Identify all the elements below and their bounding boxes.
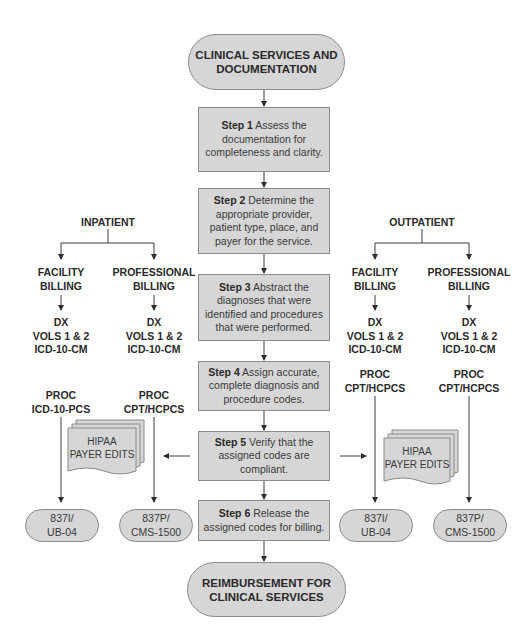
outpatient-professional-dx: DX VOLS 1 & 2 ICD-10-CM (441, 316, 498, 357)
form-line1: 837P/ (445, 512, 495, 526)
hipaa-line1: HIPAA (384, 445, 450, 458)
start-line1: CLINICAL SERVICES AND (195, 48, 337, 62)
step-6-label: Step 6 (219, 507, 251, 519)
inpatient-facility-claim-form: 837I/ UB-04 (25, 509, 99, 542)
inpatient-facility-billing: FACILITY BILLING (38, 266, 85, 293)
outpatient-facility-billing: FACILITY BILLING (352, 266, 399, 293)
start-line2: DOCUMENTATION (195, 62, 337, 76)
outpatient-title: OUTPATIENT (389, 216, 455, 230)
form-line1: 837P/ (131, 512, 181, 526)
outpatient-facility-proc: PROC CPT/HCPCS (345, 368, 406, 395)
dx-code-set: ICD-10-CM (126, 343, 183, 357)
outpatient-professional-billing: PROFESSIONAL BILLING (428, 266, 511, 293)
hipaa-line2: PAYER EDITS (68, 448, 136, 461)
form-line1: 837I/ (47, 512, 77, 526)
step-2-label: Step 2 (214, 194, 246, 206)
proc-label: PROC (32, 389, 90, 403)
outpatient-facility-claim-form: 837I/ UB-04 (339, 509, 413, 542)
step-5-label: Step 5 (215, 436, 247, 448)
proc-code-set: CPT/HCPCS (439, 382, 500, 396)
step-4-box: Step 4 Assign accurate, complete diagnos… (198, 361, 330, 411)
form-line2: CMS-1500 (131, 526, 181, 540)
inpatient-facility-title1: FACILITY (38, 266, 85, 280)
inpatient-professional-title2: BILLING (113, 280, 196, 294)
dx-code-set: ICD-10-CM (33, 343, 90, 357)
dx-label: DX (441, 316, 498, 330)
inpatient-professional-title1: PROFESSIONAL (113, 266, 196, 280)
end-terminator: REIMBURSEMENT FOR CLINICAL SERVICES (187, 562, 346, 617)
outpatient-facility-dx: DX VOLS 1 & 2 ICD-10-CM (347, 316, 404, 357)
step-6-box: Step 6 Release the assigned codes for bi… (198, 500, 330, 541)
dx-code-set: ICD-10-CM (441, 343, 498, 357)
form-line2: CMS-1500 (445, 526, 495, 540)
outpatient-facility-title2: BILLING (352, 280, 399, 294)
inpatient-professional-proc: PROC CPT/HCPCS (124, 389, 185, 416)
step-1-label: Step 1 (221, 119, 253, 131)
step-4-label: Step 4 (208, 366, 240, 378)
hipaa-line1: HIPAA (68, 435, 136, 448)
form-line1: 837I/ (361, 512, 391, 526)
dx-label: DX (126, 316, 183, 330)
outpatient-professional-proc: PROC CPT/HCPCS (439, 368, 500, 395)
inpatient-professional-billing: PROFESSIONAL BILLING (113, 266, 196, 293)
proc-label: PROC (345, 368, 406, 382)
proc-code-set: CPT/HCPCS (124, 403, 185, 417)
inpatient-facility-title2: BILLING (38, 280, 85, 294)
end-line2: CLINICAL SERVICES (202, 590, 331, 604)
step-3-box: Step 3 Abstract the diagnoses that were … (198, 274, 330, 341)
proc-label: PROC (124, 389, 185, 403)
step-3-label: Step 3 (219, 281, 251, 293)
dx-vols: VOLS 1 & 2 (347, 330, 404, 344)
step-2-box: Step 2 Determine the appropriate provide… (198, 188, 330, 254)
proc-code-set: CPT/HCPCS (345, 382, 406, 396)
form-line2: UB-04 (361, 526, 391, 540)
inpatient-facility-proc: PROC ICD-10-PCS (32, 389, 90, 416)
outpatient-professional-title2: BILLING (428, 280, 511, 294)
outpatient-professional-claim-form: 837P/ CMS-1500 (433, 509, 507, 542)
proc-code-set: ICD-10-PCS (32, 403, 90, 417)
end-line1: REIMBURSEMENT FOR (202, 576, 331, 590)
dx-vols: VOLS 1 & 2 (126, 330, 183, 344)
outpatient-hipaa-edits: HIPAA PAYER EDITS (384, 445, 450, 471)
form-line2: UB-04 (47, 526, 77, 540)
inpatient-professional-claim-form: 837P/ CMS-1500 (119, 509, 193, 542)
dx-label: DX (347, 316, 404, 330)
outpatient-facility-title1: FACILITY (352, 266, 399, 280)
inpatient-hipaa-edits: HIPAA PAYER EDITS (68, 435, 136, 461)
dx-vols: VOLS 1 & 2 (441, 330, 498, 344)
step-1-box: Step 1 Assess the documentation for comp… (198, 107, 330, 172)
outpatient-professional-title1: PROFESSIONAL (428, 266, 511, 280)
dx-code-set: ICD-10-CM (347, 343, 404, 357)
step-5-box: Step 5 Verify that the assigned codes ar… (198, 431, 330, 481)
hipaa-line2: PAYER EDITS (384, 458, 450, 471)
start-terminator: CLINICAL SERVICES AND DOCUMENTATION (188, 34, 345, 90)
dx-label: DX (33, 316, 90, 330)
inpatient-title: INPATIENT (81, 216, 135, 230)
dx-vols: VOLS 1 & 2 (33, 330, 90, 344)
proc-label: PROC (439, 368, 500, 382)
inpatient-facility-dx: DX VOLS 1 & 2 ICD-10-CM (33, 316, 90, 357)
inpatient-professional-dx: DX VOLS 1 & 2 ICD-10-CM (126, 316, 183, 357)
